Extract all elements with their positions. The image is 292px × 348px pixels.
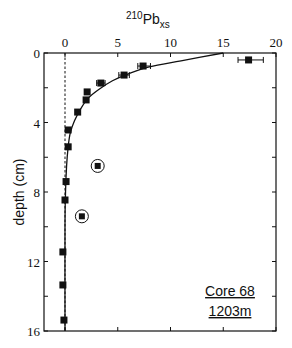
data-point-square (59, 248, 66, 255)
data-point-square (95, 163, 101, 169)
data-point-square (63, 178, 70, 185)
data-point-square (245, 56, 252, 63)
data-point-square (59, 281, 66, 288)
excluded-points (75, 159, 104, 222)
y-tick-label: 4 (34, 116, 41, 131)
data-point-square (121, 72, 128, 79)
data-point-square (84, 88, 91, 95)
x-tick-label: 15 (217, 35, 230, 50)
y-tick-label: 0 (34, 46, 41, 61)
chart: 210Pbxs depth (cm) 05101520 0481216 Core… (0, 0, 292, 348)
data-point-square (83, 96, 90, 103)
y-tick-label: 8 (34, 185, 41, 200)
title-subscript: xs (160, 19, 170, 30)
data-point-square (65, 143, 72, 150)
chart-title: 210Pbxs (126, 10, 170, 30)
x-tick-label: 0 (62, 35, 69, 50)
title-superscript: 210 (126, 10, 143, 21)
data-point-square (74, 109, 81, 116)
data-point-square (140, 63, 147, 70)
title-base: Pb (143, 11, 160, 27)
y-tick-label: 12 (27, 255, 40, 270)
x-tick-label: 5 (115, 35, 122, 50)
data-point-square (60, 317, 67, 324)
data-point-square (79, 213, 85, 219)
data-point-square (97, 80, 104, 87)
x-tick-label: 20 (270, 35, 283, 50)
y-axis-label: depth (cm) (11, 159, 27, 226)
core-label: Core 68 (205, 283, 255, 299)
data-point-square (65, 126, 72, 133)
water-depth-label: 1203m (209, 303, 252, 319)
data-point-square (62, 196, 69, 203)
depth-profile-plot: 210Pbxs depth (cm) 05101520 0481216 Core… (0, 0, 292, 348)
x-tick-label: 10 (164, 35, 177, 50)
y-tick-label: 16 (27, 324, 41, 339)
